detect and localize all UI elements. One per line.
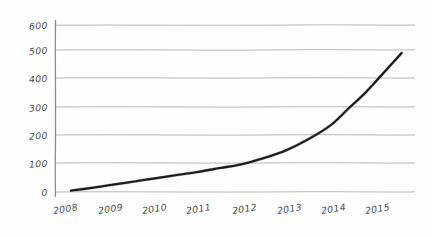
y-tick-label-600: 600 (29, 20, 48, 32)
chart-background (0, 0, 432, 237)
y-tick-label-0: 0 (41, 187, 48, 198)
chart-container: 600 500 400 300 200 100 0 2008 2009 2010… (0, 0, 432, 237)
y-tick-label-400: 400 (29, 73, 48, 85)
line-chart: 600 500 400 300 200 100 0 2008 2009 2010… (0, 0, 432, 237)
y-tick-label-100: 100 (29, 158, 48, 170)
y-tick-label-300: 300 (29, 102, 48, 114)
y-tick-label-200: 200 (29, 130, 48, 142)
y-tick-label-500: 500 (29, 45, 48, 57)
